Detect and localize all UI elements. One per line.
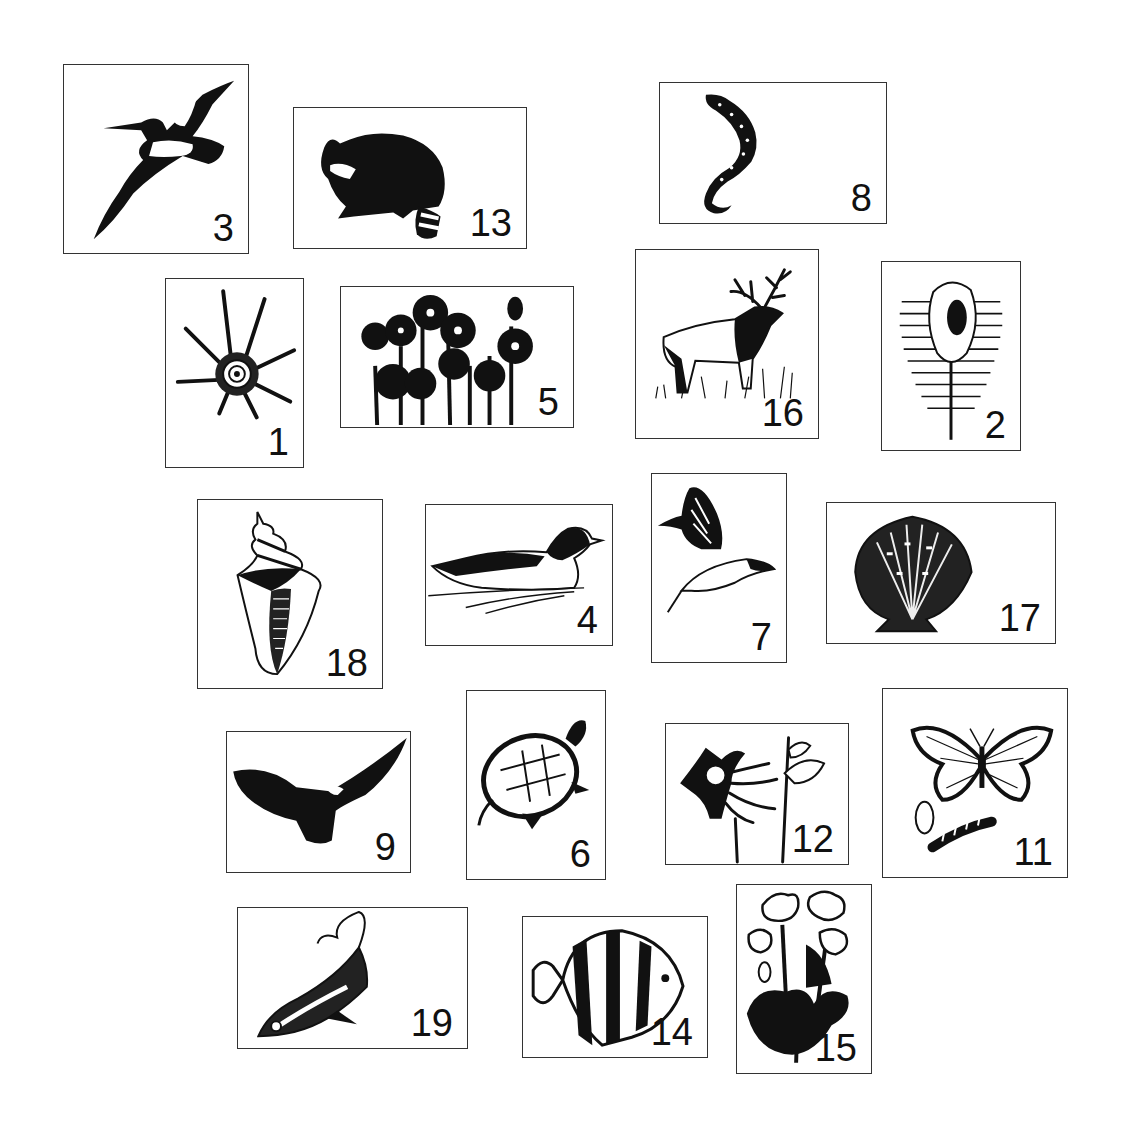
card-14[interactable]: 14 — [522, 916, 708, 1058]
card-13[interactable]: 13 — [293, 107, 527, 249]
card-number: 5 — [538, 383, 559, 421]
card-16[interactable]: 16 — [635, 249, 819, 439]
card-18[interactable]: 18 — [197, 499, 383, 689]
card-number: 14 — [651, 1013, 693, 1051]
card-7[interactable]: 7 — [651, 473, 787, 663]
card-number: 19 — [411, 1004, 453, 1042]
card-19[interactable]: 19 — [237, 907, 468, 1049]
card-2[interactable]: 2 — [881, 261, 1021, 451]
card-5[interactable]: 5 — [340, 286, 574, 428]
card-number: 11 — [1014, 833, 1053, 871]
card-number: 15 — [815, 1029, 857, 1067]
card-17[interactable]: 17 — [826, 502, 1056, 644]
card-15[interactable]: 15 — [736, 884, 872, 1074]
card-number: 6 — [570, 835, 591, 873]
card-4[interactable]: 4 — [425, 504, 613, 646]
card-number: 3 — [213, 209, 234, 247]
card-number: 13 — [470, 204, 512, 242]
card-11[interactable]: 11 — [882, 688, 1068, 878]
card-number: 2 — [985, 406, 1006, 444]
card-number: 1 — [268, 423, 289, 461]
card-1[interactable]: 1 — [165, 278, 304, 468]
card-number: 9 — [375, 828, 396, 866]
card-number: 17 — [999, 599, 1041, 637]
card-number: 4 — [577, 601, 598, 639]
card-12[interactable]: 12 — [665, 723, 849, 865]
card-number: 8 — [851, 179, 872, 217]
card-number: 12 — [792, 820, 834, 858]
card-number: 18 — [326, 644, 368, 682]
card-number: 16 — [762, 394, 804, 432]
card-9[interactable]: 9 — [226, 731, 411, 873]
card-6[interactable]: 6 — [466, 690, 606, 880]
card-3[interactable]: 3 — [63, 64, 249, 254]
card-number: 7 — [751, 618, 772, 656]
card-8[interactable]: 8 — [659, 82, 887, 224]
